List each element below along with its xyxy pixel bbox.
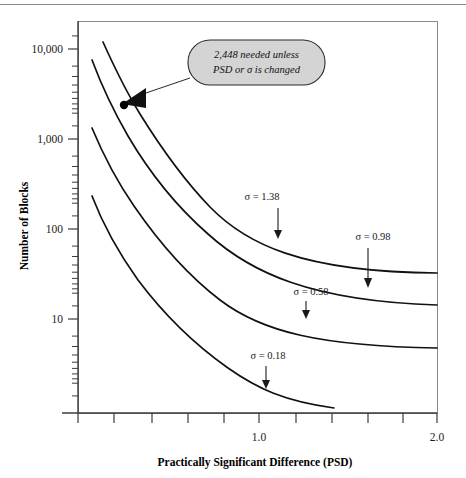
- callout-line-1: 2,448 needed unless: [214, 49, 299, 60]
- x-ticks: [78, 413, 437, 423]
- sigma-0-98-label: σ = 0.98: [355, 231, 390, 242]
- sigma-1-38-arrow-head: [274, 230, 282, 239]
- highlight-point-marker: [120, 101, 128, 109]
- x-tick-label-1: 1.0: [252, 431, 267, 443]
- annotation-sigma-0-58: σ = 0.58: [293, 286, 328, 319]
- y-tick-label-1000: 1,000: [37, 133, 63, 146]
- sigma-0-18-label: σ = 0.18: [250, 350, 285, 361]
- callout-bubble: [188, 40, 325, 85]
- y-minor-ticks: [72, 36, 78, 396]
- y-tick-label-10000: 10,000: [31, 43, 63, 56]
- sigma-0-58-label: σ = 0.58: [293, 286, 328, 297]
- callout-leader-line: [140, 78, 190, 95]
- sample-size-chart: 10,000 1,000 100 10 Number of Blocks 1.0…: [0, 0, 466, 478]
- sigma-0-58-arrow-head: [302, 310, 310, 319]
- x-tick-label-2: 2.0: [430, 431, 445, 443]
- sigma-0-98-arrow-head: [364, 278, 372, 288]
- annotation-sigma-1-38: σ = 1.38: [244, 191, 282, 239]
- y-tick-label-100: 100: [46, 223, 64, 235]
- callout-line-2: PSD or σ is changed: [212, 64, 301, 75]
- sigma-1-38-label: σ = 1.38: [244, 191, 279, 202]
- x-axis-title: Practically Significant Difference (PSD): [158, 456, 353, 469]
- figure-page: 10,000 1,000 100 10 Number of Blocks 1.0…: [0, 0, 466, 478]
- curve-sigma-0-18: [92, 196, 334, 408]
- annotation-sigma-0-98: σ = 0.98: [355, 231, 390, 288]
- y-tick-label-10: 10: [52, 313, 64, 325]
- y-axis-title: Number of Blocks: [18, 181, 30, 270]
- annotation-sigma-0-18: σ = 0.18: [250, 350, 285, 389]
- sigma-0-18-arrow-head: [262, 380, 270, 389]
